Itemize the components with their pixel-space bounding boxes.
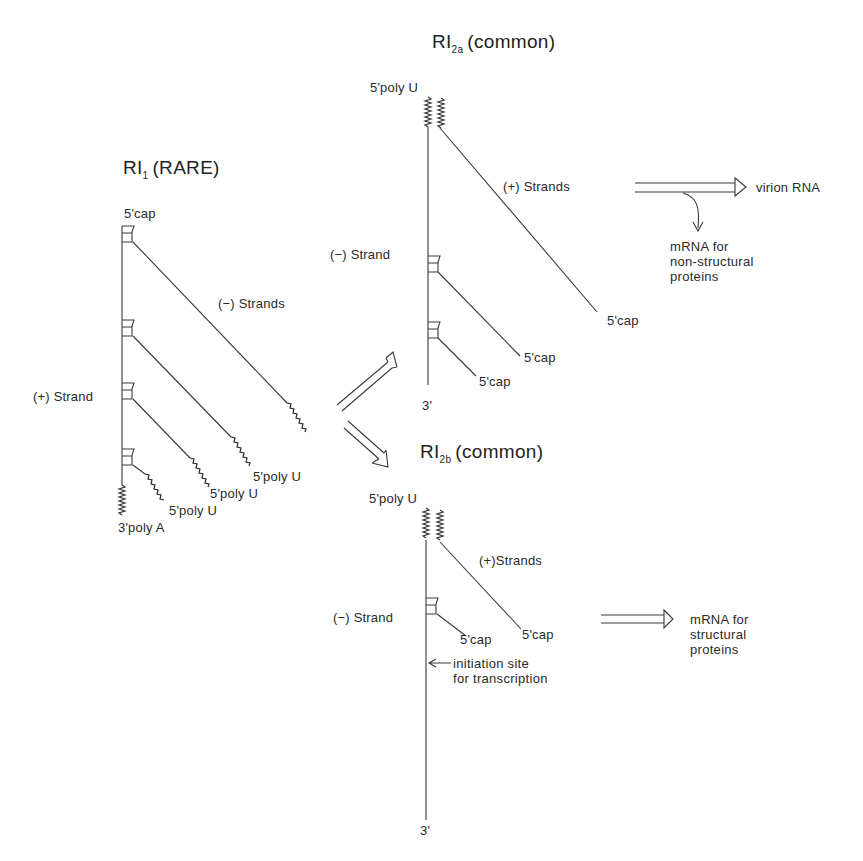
cap-icon [428, 256, 440, 272]
ri1-polyu-label-1: 5'poly U [253, 469, 301, 484]
ri2a-title-sub: 2a [452, 44, 464, 55]
arrow-to-virion-rna [635, 178, 746, 196]
ri2a-plus-strands-label: (+) Strands [503, 179, 570, 194]
ri2b-5cap-label-2: 5'cap [522, 627, 554, 642]
ri2a-5polyu-label: 5'poly U [370, 80, 418, 95]
arrow-to-ri2a [337, 352, 397, 411]
nonstructural-mrna-line-2: non-structural [670, 254, 754, 269]
ri1-title-main: RI [123, 157, 143, 178]
cap-icon [426, 598, 438, 614]
initiation-line-2: for transcription [453, 671, 548, 686]
ri1-5cap-label: 5'cap [124, 206, 156, 221]
ri2b-title: RI2b(common) [420, 441, 543, 465]
ri2a-structure [428, 127, 597, 385]
ri1-plus-strand-label: (+) Strand [33, 389, 93, 404]
arrow-to-ri2b [344, 421, 388, 467]
ri2a-title-rest: (common) [467, 31, 555, 52]
ri1-structure [122, 226, 287, 485]
diagram-canvas [0, 0, 863, 861]
cap-icon [122, 383, 134, 399]
ri2a-3prime-label: 3' [422, 398, 432, 413]
arrow-to-nonstructural-mrna [683, 193, 703, 231]
ri2a-title-main: RI [432, 31, 452, 52]
ri1-polyu-label-3: 5'poly U [169, 503, 217, 518]
structural-mrna-line-3: proteins [690, 642, 749, 657]
nonstructural-mrna-line-1: mRNA for [670, 239, 754, 254]
ri1-title-sub: 1 [143, 170, 149, 181]
ri2b-5polyu-label: 5'poly U [369, 491, 417, 506]
structural-mrna-line-1: mRNA for [690, 612, 749, 627]
ri1-minus-strands-label: (−) Strands [218, 296, 285, 311]
structural-mrna-line-2: structural [690, 627, 749, 642]
cap-icon [122, 320, 134, 336]
structural-mrna-label: mRNA for structural proteins [690, 612, 749, 657]
initiation-line-1: initiation site [453, 656, 548, 671]
ri2b-5cap-label-1: 5'cap [460, 632, 492, 647]
ri2a-minus-strand-label: (−) Strand [330, 247, 390, 262]
ri2a-5cap-label-3: 5'cap [479, 374, 511, 389]
ri2b-title-main: RI [420, 441, 440, 462]
initiation-site-label: initiation site for transcription [453, 656, 548, 686]
ri1-title-rest: (RARE) [152, 157, 219, 178]
ri2b-plus-strands-label: (+)Strands [479, 553, 542, 568]
ri2b-title-sub: 2b [440, 454, 452, 465]
ri2b-minus-strand-label: (−) Strand [333, 610, 393, 625]
ri1-polyu-label-2: 5'poly U [210, 486, 258, 501]
ri1-title: RI1(RARE) [123, 157, 220, 181]
ri2a-5cap-label-2: 5'cap [524, 350, 556, 365]
ri2b-3prime-label: 3' [420, 823, 430, 838]
cap-icon [122, 226, 134, 242]
ri2a-5cap-label-1: 5'cap [607, 313, 639, 328]
virion-rna-label: virion RNA [756, 180, 820, 195]
nonstructural-mrna-label: mRNA for non-structural proteins [670, 239, 754, 284]
nonstructural-mrna-line-3: proteins [670, 269, 754, 284]
ri2b-title-rest: (common) [455, 441, 543, 462]
ri1-3polya-label: 3'poly A [118, 520, 165, 535]
ri2a-title: RI2a(common) [432, 31, 555, 55]
arrow-to-structural-mrna [601, 610, 673, 628]
cap-icon [122, 449, 134, 465]
cap-icon [428, 322, 440, 338]
